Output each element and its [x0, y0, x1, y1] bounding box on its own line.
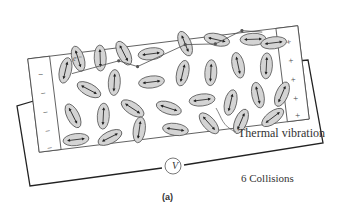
collisions-count: 6 Collisions: [241, 172, 294, 184]
electron-label: e⁻: [73, 54, 81, 63]
voltmeter-label: V: [172, 160, 178, 171]
panel-label: (a): [162, 192, 173, 202]
thermal-vibration-label: Thermal vibration: [238, 126, 325, 141]
conductor-diagram: −−−−− +++++: [0, 0, 341, 210]
